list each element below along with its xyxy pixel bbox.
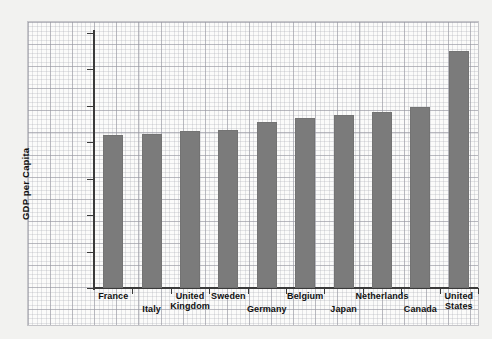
bar: [334, 115, 354, 288]
y-axis-tick: [87, 215, 94, 216]
y-axis-tick: [87, 288, 94, 289]
y-axis-tick: [87, 142, 94, 143]
x-axis-category-label: France: [73, 291, 153, 301]
x-axis-category-label: Netherlands: [342, 291, 422, 301]
x-axis-category-labels: FranceItalyUnitedKingdomSwedenGermanyBel…: [0, 291, 492, 331]
x-axis-category-label: Belgium: [265, 291, 345, 301]
y-axis-tick: [87, 69, 94, 70]
x-axis-category-label: Japan: [304, 304, 384, 314]
bar: [257, 122, 277, 288]
bar: [449, 51, 469, 288]
x-axis-category-label: Germany: [227, 304, 307, 314]
bar: [372, 112, 392, 288]
bar: [103, 135, 123, 288]
y-axis-tick: [87, 179, 94, 180]
y-axis-tick: [87, 106, 94, 107]
y-axis-labels: 05,00010,00015,00020,00025,00030,000$35,…: [0, 0, 90, 339]
bar: [142, 134, 162, 288]
bar: [180, 131, 200, 288]
bar: [410, 107, 430, 288]
bar: [218, 130, 238, 288]
x-axis-category-label: Sweden: [188, 291, 268, 301]
x-axis-category-label: UnitedStates: [419, 291, 492, 311]
y-axis-title-text: GDP per Capita: [20, 148, 31, 220]
y-axis-tick: [87, 252, 94, 253]
y-axis-tick: [87, 33, 94, 34]
plot-area: [94, 30, 478, 288]
bar: [295, 118, 315, 288]
y-axis-title: GDP per Capita: [31, 100, 45, 220]
